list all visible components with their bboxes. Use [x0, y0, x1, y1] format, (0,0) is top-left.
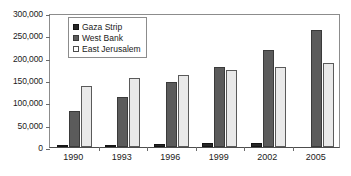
y-axis-tick-label: 50,000	[0, 121, 46, 131]
bar-group	[244, 15, 293, 147]
x-axis-tick-mark	[99, 147, 100, 151]
legend-swatch-west-bank-icon	[73, 35, 79, 41]
bar-west-bank-1990	[69, 111, 80, 147]
y-axis-tick-mark	[46, 127, 50, 128]
y-axis-tick-label: 250,000	[0, 31, 46, 41]
bar-gaza-strip-1999	[202, 143, 213, 147]
y-axis-tick-mark	[46, 104, 50, 105]
legend-item-gaza-strip: Gaza Strip	[73, 21, 141, 32]
y-axis-tick-mark	[46, 15, 50, 16]
bar-group	[293, 15, 342, 147]
x-axis-tick-mark	[244, 147, 245, 151]
bar-east-jerusalem-2002	[275, 67, 286, 147]
legend-label: East Jerusalem	[82, 44, 141, 54]
y-axis-tick-label: 150,000	[0, 76, 46, 86]
bar-chart: 050,000100,000150,000200,000250,000300,0…	[0, 0, 351, 176]
x-axis-tick-label-2005: 2005	[306, 152, 326, 162]
x-axis-tick-label-1993: 1993	[112, 152, 132, 162]
bar-west-bank-1996	[166, 82, 177, 147]
bar-east-jerusalem-1999	[226, 70, 237, 147]
x-axis: 199019931996199920022005	[49, 152, 340, 170]
y-axis-tick-label: 0	[0, 143, 46, 153]
bar-west-bank-1999	[214, 67, 225, 147]
bar-west-bank-2002	[263, 50, 274, 147]
x-axis-tick-label-1999: 1999	[209, 152, 229, 162]
x-axis-tick-label-1990: 1990	[63, 152, 83, 162]
bar-group	[147, 15, 196, 147]
y-axis: 050,000100,000150,000200,000250,000300,0…	[0, 0, 46, 176]
bar-west-bank-2005	[311, 30, 322, 147]
y-axis-tick-mark	[46, 60, 50, 61]
y-axis-tick-label: 100,000	[0, 98, 46, 108]
x-axis-tick-mark	[147, 147, 148, 151]
x-axis-tick-mark	[196, 147, 197, 151]
legend-label: West Bank	[82, 33, 123, 43]
bar-east-jerusalem-2005	[323, 63, 334, 147]
bar-east-jerusalem-1990	[81, 86, 92, 147]
bar-east-jerusalem-1993	[129, 78, 140, 147]
legend-swatch-gaza-strip-icon	[73, 24, 79, 30]
x-axis-tick-label-1996: 1996	[160, 152, 180, 162]
x-axis-tick-mark	[293, 147, 294, 151]
y-axis-tick-mark	[46, 37, 50, 38]
legend-item-east-jerusalem: East Jerusalem	[73, 43, 141, 54]
x-axis-tick-label-2002: 2002	[257, 152, 277, 162]
bar-west-bank-1993	[117, 97, 128, 147]
bar-east-jerusalem-1996	[178, 75, 189, 147]
bar-gaza-strip-1996	[154, 144, 165, 147]
y-axis-tick-mark	[46, 149, 50, 150]
legend: Gaza StripWest BankEast Jerusalem	[68, 17, 147, 58]
legend-swatch-east-jerusalem-icon	[73, 46, 79, 52]
bar-gaza-strip-1993	[105, 145, 116, 147]
y-axis-tick-label: 300,000	[0, 9, 46, 19]
y-axis-tick-mark	[46, 82, 50, 83]
bar-group	[196, 15, 245, 147]
legend-label: Gaza Strip	[82, 22, 122, 32]
y-axis-tick-label: 200,000	[0, 54, 46, 64]
bar-gaza-strip-1990	[57, 145, 68, 147]
legend-item-west-bank: West Bank	[73, 32, 141, 43]
bar-gaza-strip-2002	[251, 143, 262, 147]
